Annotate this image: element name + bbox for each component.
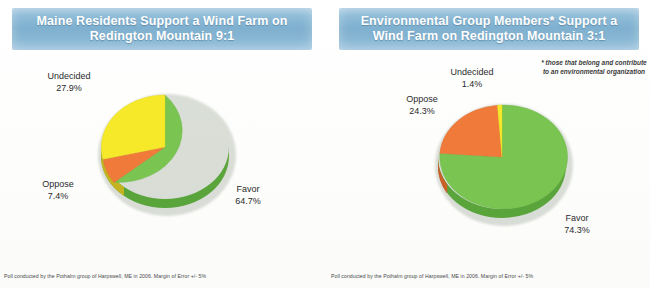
pie-label-favor-left: Favor 64.7% [218,183,278,207]
pie-label-favor-left-name: Favor [218,183,278,195]
pie-label-undecided-left: Undecided 27.9% [26,70,112,94]
pie-label-favor-left-value: 64.7% [218,195,278,207]
chart-panel-right: Environmental Group Members* Support a W… [325,0,650,288]
pie-label-oppose-left-value: 7.4% [24,190,92,202]
pie-label-favor-right-value: 74.3% [548,224,606,236]
pie-label-oppose-left: Oppose 7.4% [24,178,92,202]
chart-title-banner-left: Maine Residents Support a Wind Farm on R… [12,8,312,50]
pie-label-undecided-right-name: Undecided [433,66,511,78]
pie-label-oppose-left-name: Oppose [24,178,92,190]
chart-panel-left: Maine Residents Support a Wind Farm on R… [0,0,325,288]
source-note-left: Poll conducted by the Pothalm group of H… [4,272,206,280]
pie-chart-left [96,86,234,208]
asterisk-footnote: * those that belong and contribute to an… [541,58,647,76]
pie-label-oppose-right: Oppose 24.3% [389,93,455,117]
pie-label-undecided-right-value: 1.4% [433,78,511,90]
pie-svg-left [96,86,234,208]
chart-title-left: Maine Residents Support a Wind Farm on R… [12,14,312,44]
pie-label-undecided-right: Undecided 1.4% [433,66,511,90]
pie-label-oppose-right-name: Oppose [389,93,455,105]
pie-label-undecided-left-value: 27.9% [26,82,112,94]
chart-title-banner-right: Environmental Group Members* Support a W… [339,8,639,50]
pie-label-oppose-right-value: 24.3% [389,105,455,117]
pie-label-undecided-left-name: Undecided [26,70,112,82]
pie-label-favor-right: Favor 74.3% [548,212,606,236]
source-note-right: Poll conducted by the Pothalm group of H… [331,272,533,280]
pie-label-favor-right-name: Favor [548,212,606,224]
chart-title-right: Environmental Group Members* Support a W… [339,14,639,44]
